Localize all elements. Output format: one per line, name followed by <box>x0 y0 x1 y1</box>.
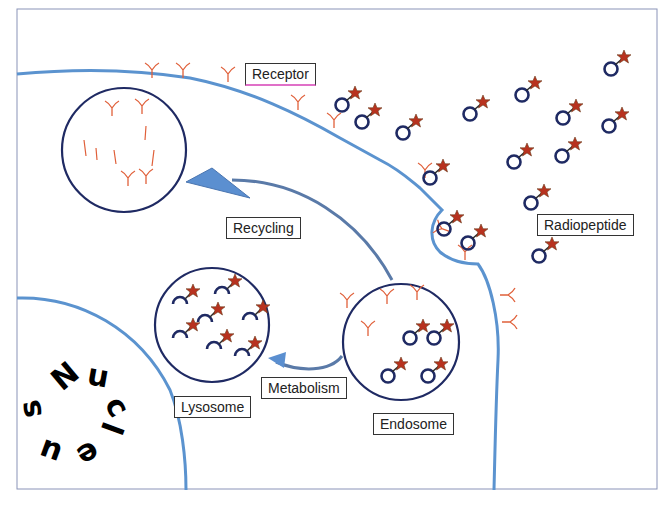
nucleus-label: N u c l e u s <box>11 354 137 474</box>
svg-text:l: l <box>94 418 130 440</box>
diagram-svg: N u c l e u s <box>0 0 672 507</box>
receptor-label: Receptor <box>245 63 316 86</box>
svg-text:u: u <box>85 356 112 394</box>
radiopeptide-label: Radiopeptide <box>537 214 634 236</box>
diagram-canvas: N u c l e u s Receptor Recycling Radiope… <box>0 0 672 507</box>
lysosome <box>155 268 270 382</box>
svg-text:e: e <box>71 434 106 474</box>
metabolism-label: Metabolism <box>261 377 347 399</box>
svg-text:N: N <box>44 354 86 397</box>
recycling-label: Recycling <box>226 217 301 239</box>
endosome <box>340 284 459 400</box>
recycling-vesicle <box>62 88 186 212</box>
svg-text:c: c <box>98 390 137 423</box>
svg-text:u: u <box>34 432 66 472</box>
metabolism-arrow <box>268 352 342 369</box>
endosome-label: Endosome <box>373 413 454 435</box>
lysosome-label: Lysosome <box>174 396 251 418</box>
